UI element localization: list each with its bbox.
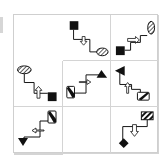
- cell-r2-c1[interactable]: [63, 61, 111, 107]
- diagonal-rect-icon: [137, 92, 149, 100]
- striped-rect-icon: [141, 112, 153, 120]
- figure-square-down-ellipse: [63, 15, 110, 60]
- black-square-icon: [48, 92, 57, 101]
- arrow-left-icon: [32, 128, 44, 133]
- arrow-right-icon: [79, 80, 91, 85]
- hatched-ellipse-icon: [148, 21, 155, 34]
- figure-rect-up-triangle: [111, 61, 158, 106]
- cell-r2-c3[interactable]: [14, 107, 63, 154]
- cell-r1-c3[interactable]: [14, 61, 63, 107]
- hatched-ellipse-icon: [17, 66, 31, 74]
- black-square-icon: [70, 21, 79, 30]
- figure-rect-right-triangle: [63, 61, 110, 106]
- black-triangle-up-icon: [97, 70, 108, 78]
- side-tab: [0, 17, 3, 33]
- cell-r1-c1[interactable]: [63, 15, 111, 61]
- cell-r3-c1-empty[interactable]: [63, 107, 111, 154]
- cell-r2-c2[interactable]: [111, 61, 159, 107]
- figure-stripe-down-diamond: [111, 107, 158, 153]
- diagonal-rect-icon: [48, 111, 56, 123]
- puzzle-grid: [13, 14, 158, 153]
- cell-r3-c2[interactable]: [111, 107, 159, 154]
- black-diamond-icon: [119, 138, 129, 148]
- hatched-ellipse-icon: [97, 48, 109, 56]
- arrow-up-icon: [35, 86, 42, 98]
- diagonal-rect-icon: [67, 86, 75, 98]
- black-triangle-down-icon: [18, 138, 28, 146]
- figure-rect-left-triangle: [14, 107, 62, 153]
- black-square-icon: [116, 46, 125, 55]
- arrow-down-icon: [80, 37, 87, 46]
- cell-r3-c3[interactable]: [14, 154, 63, 155]
- figure-ellipse-up-square: [14, 61, 62, 106]
- cell-r1-c2[interactable]: [111, 15, 159, 61]
- figure-square-right-ellipse: [111, 15, 158, 60]
